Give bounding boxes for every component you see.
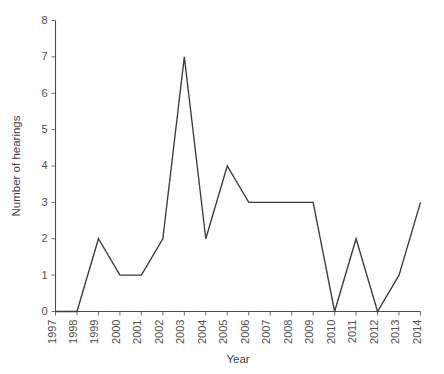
y-axis-tick-label: 6 [41,87,47,99]
x-axis-tick-label: 2005 [217,320,229,344]
y-axis-tick-label: 5 [41,123,47,135]
chart-figure: 0123456781997199819992000200120022003200… [0,0,444,374]
x-axis-tick-label: 2001 [131,320,143,344]
y-axis-tick-label: 8 [41,14,47,26]
x-axis-tick-label: 2006 [239,320,251,344]
y-axis-tick-label: 4 [41,159,47,171]
x-axis-tick-label: 2009 [303,320,315,344]
x-axis-tick-label: 2010 [325,320,337,344]
y-axis-tick-label: 0 [41,305,47,317]
data-series-line [56,57,421,312]
x-axis-tick-label: 2000 [110,320,122,344]
y-axis-tick-label: 2 [41,232,47,244]
x-axis-tick-label: 1998 [67,320,79,344]
x-axis-tick-label: 1999 [88,320,100,344]
x-axis-tick-label: 2007 [260,320,272,344]
y-axis-tick-label: 3 [41,196,47,208]
x-axis-tick-label: 2013 [389,320,401,344]
x-axis-tick-label: 2014 [411,320,423,344]
y-axis-tick-label: 7 [41,50,47,62]
x-axis-tick-label: 1997 [46,320,58,344]
line-chart-canvas: 0123456781997199819992000200120022003200… [0,0,444,374]
x-axis-tick-label: 2003 [174,320,186,344]
x-axis-tick-label: 2004 [196,320,208,344]
x-axis-tick-label: 2012 [368,320,380,344]
x-axis-tick-label: 2011 [346,320,358,344]
y-axis-title: Number of hearings [10,115,22,216]
x-axis-tick-label: 2002 [153,320,165,344]
y-axis-tick-label: 1 [41,269,47,281]
x-axis-tick-label: 2008 [282,320,294,344]
x-axis-title: Year [226,353,249,365]
